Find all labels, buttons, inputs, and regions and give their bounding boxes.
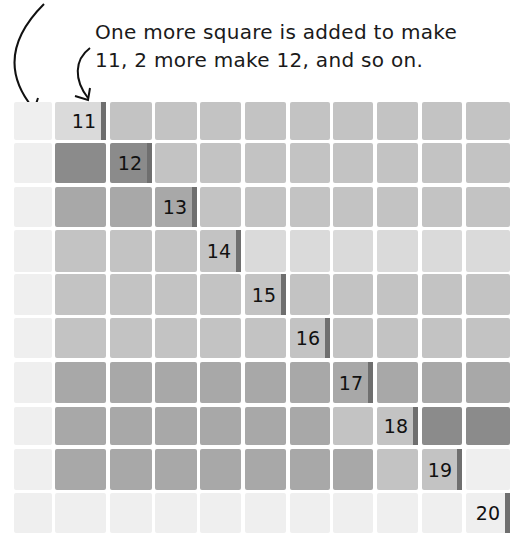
square — [110, 230, 152, 272]
square — [422, 362, 462, 403]
square — [155, 493, 197, 533]
square — [466, 407, 510, 445]
square — [155, 318, 197, 358]
square — [377, 187, 418, 227]
square — [200, 318, 241, 358]
square — [110, 449, 152, 490]
square — [466, 318, 510, 358]
square — [110, 362, 152, 403]
square — [245, 449, 286, 490]
square — [245, 230, 286, 272]
square — [290, 449, 330, 490]
labeled-square: 12 — [110, 143, 152, 183]
square-count-label: 13 — [163, 196, 187, 218]
square — [200, 407, 241, 445]
labeled-square: 19 — [422, 449, 462, 490]
grid-row-12: 12 — [14, 143, 512, 183]
square — [466, 274, 510, 315]
square — [200, 274, 241, 315]
square — [333, 407, 373, 445]
square — [14, 407, 52, 445]
square — [155, 274, 197, 315]
square — [110, 187, 152, 227]
square — [110, 274, 152, 315]
square — [333, 143, 373, 183]
square — [14, 102, 52, 140]
square-count-label: 16 — [296, 327, 320, 349]
square-count-label: 12 — [118, 152, 142, 174]
grid-row-13: 13 — [14, 187, 512, 227]
square — [110, 102, 152, 140]
grid-row-11: 11 — [14, 102, 512, 140]
square — [377, 449, 418, 490]
square — [155, 407, 197, 445]
square — [155, 362, 197, 403]
labeled-square: 11 — [55, 102, 106, 140]
square — [466, 102, 510, 140]
annotation-line-2: 11, 2 more make 12, and so on. — [95, 46, 515, 74]
square — [422, 274, 462, 315]
square — [14, 187, 52, 227]
long-curved-arrow-icon — [15, 4, 44, 108]
square — [377, 318, 418, 358]
square — [422, 407, 462, 445]
square — [55, 143, 106, 183]
labeled-square: 18 — [377, 407, 418, 445]
square — [155, 143, 197, 183]
square — [200, 493, 241, 533]
square — [245, 187, 286, 227]
square — [55, 407, 106, 445]
square — [110, 318, 152, 358]
annotation-text: One more square is added to make 11, 2 m… — [95, 18, 515, 74]
square — [333, 318, 373, 358]
square-count-label: 18 — [384, 415, 408, 437]
grid-row-15: 15 — [14, 274, 512, 315]
square — [245, 407, 286, 445]
square — [55, 493, 106, 533]
labeled-square: 14 — [200, 230, 241, 272]
square — [200, 143, 241, 183]
square — [422, 187, 462, 227]
square — [290, 230, 330, 272]
square — [55, 187, 106, 227]
square — [377, 493, 418, 533]
square-count-label: 15 — [252, 284, 276, 306]
square — [422, 318, 462, 358]
square — [290, 493, 330, 533]
square — [55, 274, 106, 315]
grid-row-18: 18 — [14, 407, 512, 445]
square — [422, 143, 462, 183]
square — [290, 187, 330, 227]
square — [200, 102, 241, 140]
square — [290, 274, 330, 315]
square — [200, 449, 241, 490]
labeled-square: 16 — [290, 318, 330, 358]
square-count-label: 17 — [339, 372, 363, 394]
square — [14, 493, 52, 533]
square — [333, 493, 373, 533]
short-curved-arrow-icon — [78, 48, 90, 98]
labeled-square: 15 — [245, 274, 286, 315]
square — [377, 143, 418, 183]
grid-row-14: 14 — [14, 230, 512, 272]
square — [422, 102, 462, 140]
square — [245, 362, 286, 403]
square — [110, 493, 152, 533]
square — [333, 274, 373, 315]
square — [55, 230, 106, 272]
square — [333, 187, 373, 227]
square — [245, 143, 286, 183]
square — [377, 230, 418, 272]
labeled-square: 17 — [333, 362, 373, 403]
square — [155, 102, 197, 140]
square — [377, 274, 418, 315]
square — [245, 493, 286, 533]
square — [377, 362, 418, 403]
square — [290, 143, 330, 183]
labeled-square: 20 — [466, 493, 510, 533]
square-count-label: 14 — [207, 240, 231, 262]
square-count-label: 11 — [72, 110, 96, 132]
square — [245, 318, 286, 358]
grid-row-16: 16 — [14, 318, 512, 358]
square — [14, 143, 52, 183]
